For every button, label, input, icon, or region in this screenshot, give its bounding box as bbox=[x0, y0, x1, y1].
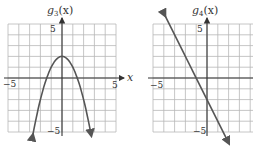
graph-g3: g3(x) 5 −5 −5 5 x bbox=[3, 4, 134, 136]
y-tick-neg5-g3: −5 bbox=[47, 126, 61, 136]
x-tick-5-g3: 5 bbox=[112, 80, 118, 90]
y-tick-5-g4: 5 bbox=[197, 24, 203, 34]
x-axis-label: x bbox=[127, 71, 134, 84]
x-tick-neg5-g4: −5 bbox=[150, 80, 164, 90]
y-tick-5-g3: 5 bbox=[50, 24, 56, 34]
title-g3: g3(x) bbox=[47, 4, 73, 18]
y-tick-neg5-g4: −5 bbox=[193, 126, 207, 136]
x-tick-neg5-g3: −5 bbox=[3, 79, 17, 89]
graphs-figure: g3(x) 5 −5 −5 5 x g4(x) 5 −5 −5 bbox=[0, 0, 253, 147]
graph-g4: g4(x) 5 −5 −5 bbox=[148, 4, 253, 143]
title-g4: g4(x) bbox=[192, 4, 218, 18]
